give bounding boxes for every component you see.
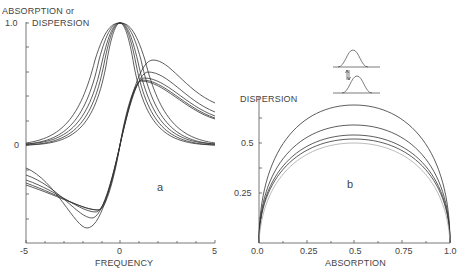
b-ytick-025: 0.25 bbox=[234, 188, 252, 198]
a-xtick-mid: 0 bbox=[117, 246, 122, 256]
inset-lineshapes bbox=[333, 50, 380, 93]
a-xtick-max: 5 bbox=[212, 246, 217, 256]
panel-label-b: b bbox=[347, 178, 353, 190]
b-xtick-05: 0.5 bbox=[349, 246, 362, 256]
a-ylabel-line2: DISPERSION bbox=[32, 18, 90, 28]
a-xtick-min: -5 bbox=[20, 246, 28, 256]
b-xlabel: ABSORPTION bbox=[325, 258, 386, 268]
b-xtick-025: 0.25 bbox=[300, 246, 318, 256]
b-ytick-05: 0.5 bbox=[241, 138, 254, 148]
b-ylabel: DISPERSION bbox=[240, 94, 298, 104]
panel-label-a: a bbox=[157, 181, 163, 193]
a-ylabel-line1: ABSORPTION or bbox=[2, 6, 74, 16]
b-xtick-075: 0.75 bbox=[395, 246, 413, 256]
chart-canvas bbox=[0, 0, 469, 274]
b-xtick-0: 0.0 bbox=[251, 246, 264, 256]
a-ytick-top: 1.0 bbox=[5, 18, 18, 28]
a-ytick-zero: 0 bbox=[14, 140, 19, 150]
a-xlabel: FREQUENCY bbox=[95, 258, 153, 268]
b-xtick-1: 1.0 bbox=[444, 246, 457, 256]
figure: ABSORPTION or 1.0 DISPERSION 0 -5 0 5 FR… bbox=[0, 0, 469, 274]
dispersion-curves bbox=[26, 60, 215, 228]
dispa-arcs bbox=[259, 105, 450, 243]
